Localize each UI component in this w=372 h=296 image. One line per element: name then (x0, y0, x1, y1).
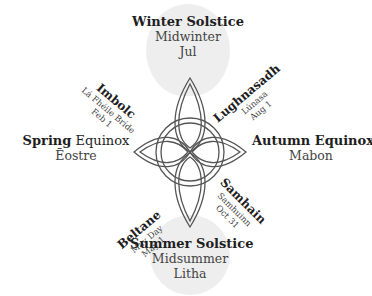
summer-solstice-label: Summer Solstice Midsummer Litha (130, 236, 250, 281)
spring-equinox-label: Spring Equinox Ēostre (20, 133, 132, 163)
autumn-equinox-label: Autumn Equinox Mabon (252, 133, 370, 163)
summer-solstice-alt: Midsummer (130, 251, 250, 266)
summer-solstice-title: Summer Solstice (130, 236, 250, 251)
spring-equinox-title: Spring Equinox (20, 133, 132, 148)
winter-solstice-title: Winter Solstice (130, 14, 246, 29)
winter-solstice-alt: Midwinter (130, 29, 246, 44)
autumn-equinox-title: Autumn Equinox (252, 133, 370, 148)
summer-solstice-alt2: Litha (130, 266, 250, 281)
winter-solstice-alt2: Jul (130, 44, 246, 59)
wheel-of-year-diagram: Winter Solstice Midwinter Jul Imbolc Lá … (0, 0, 372, 296)
autumn-equinox-alt: Mabon (252, 148, 370, 163)
spring-equinox-alt: Ēostre (20, 148, 132, 163)
winter-solstice-label: Winter Solstice Midwinter Jul (130, 14, 246, 59)
